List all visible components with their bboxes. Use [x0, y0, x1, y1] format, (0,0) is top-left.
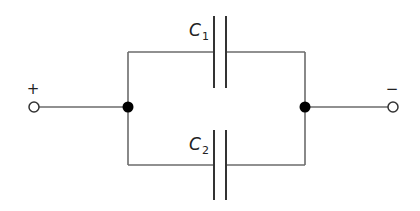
left-junction-node [123, 102, 134, 113]
c1-subscript: 1 [202, 30, 209, 43]
c2-subscript: 2 [202, 144, 209, 157]
positive-sign: + [27, 80, 40, 98]
capacitor-c2: C2 [128, 130, 305, 200]
capacitor-c1: C1 [128, 16, 305, 88]
c2-label: C2 [189, 134, 209, 157]
negative-terminal [388, 102, 398, 112]
positive-terminal [29, 102, 39, 112]
negative-sign: − [386, 80, 399, 98]
right-junction-node [300, 102, 311, 113]
parallel-capacitor-circuit: C1 C2 + − [0, 0, 420, 211]
c1-label: C1 [189, 20, 209, 43]
